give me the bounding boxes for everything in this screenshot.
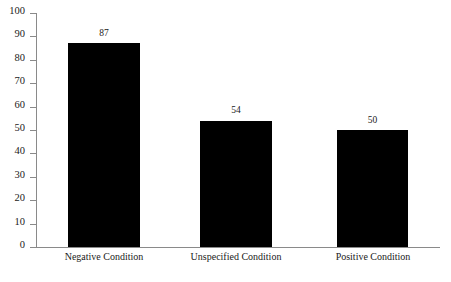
- y-tick-30: 30: [0, 177, 50, 178]
- y-tick-mark: [30, 60, 36, 61]
- y-tick-label: 80: [15, 52, 26, 63]
- y-tick-mark: [30, 153, 36, 154]
- y-tick-mark: [30, 36, 36, 37]
- y-tick-70: 70: [0, 83, 50, 84]
- y-tick-label: 0: [20, 239, 25, 250]
- y-tick-mark: [30, 130, 36, 131]
- y-tick-label: 10: [15, 216, 26, 227]
- figure-caption-fragment: [6, 274, 445, 282]
- y-tick-label: 70: [15, 75, 26, 86]
- y-tick-label: 50: [15, 122, 26, 133]
- y-tick-60: 60: [0, 107, 50, 108]
- x-axis-line: [36, 247, 440, 248]
- bar-chart-figure: 100 90 80 70 60 50 40 30: [0, 0, 451, 282]
- y-tick-80: 80: [0, 60, 50, 61]
- bar-unspecified-condition[interactable]: [200, 121, 272, 247]
- bar-positive-condition[interactable]: [337, 130, 408, 247]
- y-tick-mark: [30, 107, 36, 108]
- bar-value-label: 50: [337, 115, 408, 125]
- y-tick-40: 40: [0, 153, 50, 154]
- y-tick-50: 50: [0, 130, 50, 131]
- x-category-label-unspecified: Unspecified Condition: [170, 251, 302, 263]
- y-tick-label: 90: [15, 28, 26, 39]
- y-tick-mark: [30, 13, 36, 14]
- y-tick-mark: [30, 224, 36, 225]
- y-tick-label: 30: [15, 169, 26, 180]
- y-tick-20: 20: [0, 200, 50, 201]
- bar-value-label: 87: [68, 28, 140, 38]
- y-tick-label: 100: [9, 5, 25, 16]
- y-tick-label: 40: [15, 145, 26, 156]
- bar-value-label: 54: [200, 105, 272, 115]
- x-category-label-positive: Positive Condition: [307, 251, 439, 263]
- y-tick-mark: [30, 247, 36, 248]
- y-tick-90: 90: [0, 36, 50, 37]
- x-category-label-negative: Negative Condition: [38, 251, 170, 263]
- y-tick-mark: [30, 177, 36, 178]
- y-tick-mark: [30, 200, 36, 201]
- y-tick-0: 0: [0, 247, 50, 248]
- y-tick-100: 100: [0, 13, 50, 14]
- y-tick-label: 60: [15, 99, 26, 110]
- y-tick-label: 20: [15, 192, 26, 203]
- bar-negative-condition[interactable]: [68, 43, 140, 247]
- y-tick-10: 10: [0, 224, 50, 225]
- y-tick-mark: [30, 83, 36, 84]
- plot-area: 100 90 80 70 60 50 40 30: [0, 0, 451, 282]
